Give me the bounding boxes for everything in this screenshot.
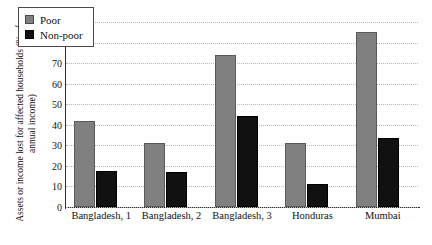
legend-item: Poor xyxy=(25,12,83,27)
y-tick-label: 70 xyxy=(22,58,62,69)
legend: PoorNon-poor xyxy=(18,7,94,47)
y-tick-label: 10 xyxy=(22,181,62,192)
y-tick-label: 40 xyxy=(22,119,62,130)
x-tick-label: Bangladesh, 2 xyxy=(142,210,202,221)
x-tick-label: Honduras xyxy=(292,210,333,221)
y-tick-label: 60 xyxy=(22,78,62,89)
legend-label: Poor xyxy=(40,14,61,26)
y-axis-tick-labels: 0102030405060708090 xyxy=(18,22,62,207)
y-tick-label: 50 xyxy=(22,99,62,110)
legend-swatch-poor xyxy=(25,15,34,24)
legend-swatch-non-poor xyxy=(25,30,34,39)
legend-item: Non-poor xyxy=(25,27,83,42)
x-tick-label: Mumbai xyxy=(365,210,401,221)
y-tick-label: 0 xyxy=(22,202,62,213)
x-tick-label: Bangladesh, 3 xyxy=(212,210,272,221)
x-axis-tick-labels: Bangladesh, 1Bangladesh, 2Bangladesh, 3H… xyxy=(66,0,418,245)
y-tick-label: 20 xyxy=(22,160,62,171)
y-tick-label: 30 xyxy=(22,140,62,151)
bar-chart-figure: Assets or income lost for affected house… xyxy=(0,0,432,245)
legend-label: Non-poor xyxy=(40,29,83,41)
x-tick-label: Bangladesh, 1 xyxy=(71,210,131,221)
